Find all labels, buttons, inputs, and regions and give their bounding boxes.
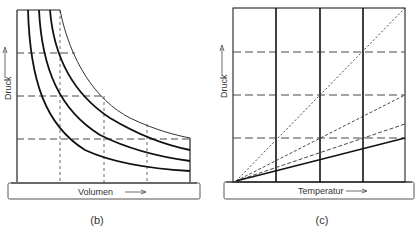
pressure-gridlines-b — [17, 53, 190, 139]
isotherm-1 — [28, 10, 190, 171]
isotherm-3 — [50, 10, 190, 150]
figure: Druck Volumen (b) — [0, 0, 416, 232]
panel-c: Druck Temperatur (c) — [219, 8, 414, 226]
pressure-gridlines-c — [233, 52, 405, 138]
y-axis-label-b: Druck — [3, 76, 13, 100]
x-axis-label-c: Temperatur — [298, 186, 344, 196]
caption-b: (b) — [90, 214, 103, 226]
caption-c: (c) — [316, 214, 329, 226]
y-axis-label-c: Druck — [219, 74, 229, 98]
isotherm-2 — [39, 10, 190, 161]
panel-b: Druck Volumen (b) — [3, 10, 200, 226]
x-axis-label-b: Volumen — [78, 187, 113, 197]
